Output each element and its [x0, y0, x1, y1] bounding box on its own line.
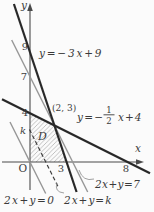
y-axis-arrowhead-icon — [27, 3, 33, 11]
x-tick-8: 8 — [123, 163, 129, 174]
origin-label: O — [18, 162, 27, 174]
point-label-2-3: (2, 3) — [52, 103, 76, 113]
x-axis-arrowhead-icon — [136, 159, 144, 165]
equation-fraction-suffix: x+4 — [118, 111, 142, 123]
y-tick-k: k — [20, 125, 26, 136]
math-figure: y x O 9 7 4 k 3 8 y=−3x+9 y=− 1 2 x+4 2x… — [0, 0, 154, 212]
x-axis-label: x — [135, 142, 141, 154]
y-tick-4: 4 — [22, 107, 28, 118]
fraction-denominator: 2 — [106, 116, 111, 126]
y-tick-9: 9 — [22, 41, 28, 52]
equation-label-2x-plus-y-eq-k: 2x+y=k — [63, 194, 113, 206]
y-tick-7: 7 — [21, 71, 27, 82]
equation-fraction-prefix: y=− — [76, 111, 104, 123]
equation-label-y-eq-neg3x-plus-9: y=−3x+9 — [38, 47, 103, 59]
plot-svg: y x O 9 7 4 k 3 8 y=−3x+9 y=− 1 2 x+4 2x… — [0, 0, 154, 212]
region-label-D: D — [37, 130, 47, 143]
fraction-numerator: 1 — [106, 105, 111, 115]
y-axis-label: y — [20, 0, 28, 11]
equation-label-2x-plus-y-eq-7: 2x+y=7 — [94, 178, 140, 190]
x-tick-3: 3 — [58, 163, 64, 174]
equation-label-y-eq-neg-half-x-plus-4: y=− 1 2 x+4 — [76, 105, 142, 126]
equation-label-2x-plus-y-eq-0: 2x+y=0 — [3, 194, 55, 206]
